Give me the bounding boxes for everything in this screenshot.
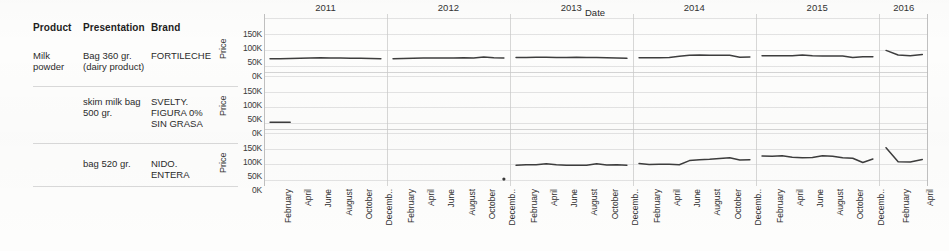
panel-fortileche-2014	[634, 14, 755, 72]
x-tick-2015-october: October	[855, 189, 865, 219]
data-line	[639, 55, 750, 58]
panel-nido-2013	[511, 129, 632, 186]
row-presentation-0: Bag 360 gr. (dairy product)	[83, 50, 149, 72]
year-label-2013: 2013	[511, 2, 632, 13]
year-label-2016: 2016	[880, 2, 928, 13]
x-tick-2013-april: April	[549, 189, 559, 206]
panel-nido-2012	[388, 129, 509, 186]
panel-nido-2014	[634, 129, 755, 186]
panel-svelty-2012	[388, 72, 509, 129]
row-presentation-1: skim milk bag 500 gr.	[83, 96, 149, 118]
panel-fortileche-2011	[265, 14, 386, 72]
row-brand-1: SVELTY. FIGURA 0% SIN GRASA	[151, 96, 217, 129]
x-tick-2011-april: April	[303, 189, 313, 206]
data-line	[762, 156, 873, 163]
x-tick-2013-june: June	[569, 189, 579, 207]
panel-nido-2011	[265, 129, 386, 186]
x-axis-tick-labels: FebruaryAprilJuneAugustOctoberDecemb..Fe…	[265, 189, 928, 251]
x-tick-2014-october: October	[733, 189, 743, 219]
y-tick-50k-row-0: 50K	[230, 57, 262, 67]
data-point	[502, 178, 505, 181]
y-tick-150k-row-1: 150K	[230, 86, 262, 96]
y-tick-100k-row-0: 100K	[230, 43, 262, 53]
row-separator-3	[33, 186, 238, 187]
panel-svelty-2013	[511, 72, 632, 129]
panel-svelty-2011	[265, 72, 386, 129]
x-tick-2014-august: August	[712, 189, 722, 215]
x-tick-2011-decemb: Decemb..	[384, 189, 394, 225]
y-tick-150k-row-0: 150K	[230, 29, 262, 39]
panel-fortileche-2013	[511, 14, 632, 72]
panel-nido-2015	[757, 129, 878, 186]
panel-svelty-2015	[757, 72, 878, 129]
x-tick-2012-august: August	[467, 189, 477, 215]
year-label-2012: 2012	[388, 2, 509, 13]
x-tick-2015-april: April	[795, 189, 805, 206]
x-tick-2013-decemb: Decemb..	[630, 189, 640, 225]
x-tick-2016-april: April	[925, 189, 935, 206]
data-line	[393, 57, 504, 59]
x-tick-2012-february: February	[406, 189, 416, 223]
x-tick-2011-february: February	[283, 189, 293, 223]
x-tick-2013-february: February	[529, 189, 539, 223]
y-tick-0k-row-1: 0K	[230, 128, 262, 138]
panel-svelty-2016	[880, 72, 928, 129]
column-header-brand: Brand	[151, 22, 180, 33]
y-tick-100k-row-2: 100K	[230, 157, 262, 167]
x-tick-2014-decemb: Decemb..	[753, 189, 763, 225]
y-tick-50k-row-2: 50K	[230, 171, 262, 181]
data-line	[639, 158, 750, 165]
x-tick-2011-august: August	[344, 189, 354, 215]
y-axis-label-row-1: Price	[217, 105, 229, 115]
row-separator-1	[33, 86, 238, 87]
plot-right-edge	[927, 14, 928, 186]
x-tick-2012-october: October	[487, 189, 497, 219]
row-presentation-2: bag 520 gr.	[83, 158, 149, 169]
panel-svelty-2014	[634, 72, 755, 129]
x-tick-2015-decemb: Decemb..	[876, 189, 886, 225]
row-brand-0: FORTILECHE	[151, 50, 217, 61]
row-separator-2	[33, 143, 238, 144]
x-tick-2013-august: August	[589, 189, 599, 215]
panel-fortileche-2016	[880, 14, 928, 72]
x-tick-2015-august: August	[835, 189, 845, 215]
x-tick-2015-june: June	[815, 189, 825, 207]
panel-fortileche-2015	[757, 14, 878, 72]
x-tick-2015-february: February	[775, 189, 785, 223]
x-tick-2014-april: April	[672, 189, 682, 206]
data-line	[516, 57, 627, 58]
data-line	[886, 50, 922, 55]
column-header-product: Product	[33, 22, 71, 33]
column-header-presentation: Presentation	[83, 22, 145, 33]
year-label-2015: 2015	[757, 2, 878, 13]
row-brand-2: NIDO. ENTERA	[151, 158, 217, 180]
panel-fortileche-2012	[388, 14, 509, 72]
trellis-chart-figure: Product Presentation Brand Milk powder B…	[0, 0, 949, 251]
x-tick-2014-june: June	[692, 189, 702, 207]
y-tick-150k-row-2: 150K	[230, 143, 262, 153]
row-product-0: Milk powder	[33, 50, 81, 72]
y-axis-label-row-0: Price	[217, 48, 229, 58]
x-tick-2014-february: February	[652, 189, 662, 223]
panel-nido-2016	[880, 129, 928, 186]
x-tick-2012-april: April	[426, 189, 436, 206]
year-label-2014: 2014	[634, 2, 755, 13]
data-line	[762, 55, 873, 57]
y-axis-label-row-2: Price	[217, 162, 229, 172]
data-line	[516, 164, 627, 165]
x-tick-2011-june: June	[323, 189, 333, 207]
x-tick-2016-february: February	[901, 189, 911, 223]
x-tick-2011-october: October	[364, 189, 374, 219]
data-line	[886, 148, 922, 162]
plot-area: 201120122013201420152016	[265, 14, 928, 186]
x-tick-2013-october: October	[610, 189, 620, 219]
y-tick-100k-row-1: 100K	[230, 100, 262, 110]
x-tick-2012-june: June	[446, 189, 456, 207]
data-line	[270, 58, 381, 59]
y-tick-50k-row-1: 50K	[230, 114, 262, 124]
y-tick-0k-row-2: 0K	[230, 185, 262, 195]
y-tick-0k-row-0: 0K	[230, 71, 262, 81]
year-label-2011: 2011	[265, 2, 386, 13]
x-tick-2012-decemb: Decemb..	[507, 189, 517, 225]
